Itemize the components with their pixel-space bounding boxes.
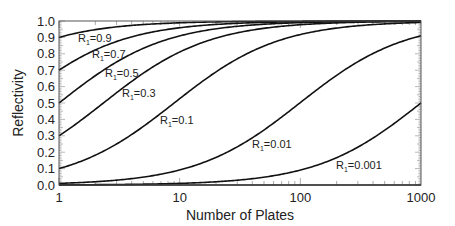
x-axis-label: Number of Plates [186, 207, 294, 223]
y-axis-label: Reflectivity [10, 69, 26, 137]
y-tick-label: 0.9 [37, 30, 55, 45]
series-label: R1=0.3 [122, 87, 156, 101]
y-tick-labels: 0.00.10.20.30.40.50.60.70.80.91.0 [37, 14, 55, 193]
series-label: R1=0.9 [78, 32, 112, 46]
y-tick-label: 0.6 [37, 79, 55, 94]
series-label: R1=0.7 [92, 48, 126, 62]
curve-R1=0.7 [59, 21, 421, 70]
series-labels: R1=0.9R1=0.7R1=0.5R1=0.3R1=0.1R1=0.01R1=… [78, 32, 382, 173]
x-tick-label: 100 [289, 190, 311, 205]
y-tick-label: 0.5 [37, 96, 55, 111]
y-tick-label: 0.4 [37, 112, 55, 127]
x-tick-label: 1 [55, 190, 62, 205]
reflectivity-chart: 0.00.10.20.30.40.50.60.70.80.91.0 110100… [0, 0, 455, 226]
y-tick-label: 0.7 [37, 63, 55, 78]
x-tick-label: 10 [172, 190, 186, 205]
y-tick-label: 0.3 [37, 128, 55, 143]
y-tick-label: 0.0 [37, 178, 55, 193]
series-label: R1=0.1 [160, 114, 194, 128]
series-label: R1=0.5 [105, 67, 139, 81]
x-tick-label: 1000 [407, 190, 436, 205]
y-tick-label: 0.8 [37, 46, 55, 61]
curve-R1=0.5 [59, 21, 421, 103]
series-label: R1=0.001 [336, 159, 382, 173]
y-tick-label: 0.1 [37, 161, 55, 176]
y-tick-label: 0.2 [37, 145, 55, 160]
series-label: R1=0.01 [252, 138, 292, 152]
x-tick-labels: 1101001000 [55, 190, 435, 205]
curve-R1=0.001 [59, 103, 421, 185]
y-tick-label: 1.0 [37, 14, 55, 29]
